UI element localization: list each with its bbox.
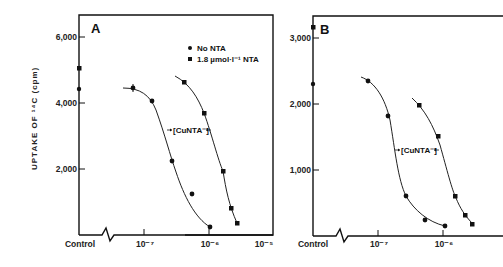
panel-b-letter: B xyxy=(320,22,329,37)
panel-b-y-tick-1000: 1,000 xyxy=(290,165,312,175)
panel-a-frame xyxy=(79,15,273,235)
panel-b-y-tick-3000: 3,000 xyxy=(290,33,312,43)
panel-a-x-tick-control: Control xyxy=(65,239,95,249)
panel-b-frame xyxy=(313,16,503,236)
panel-a-y-tick-2000: 2,000 xyxy=(56,164,78,174)
svg-text:[CuNTA⁻]: [CuNTA⁻] xyxy=(401,146,437,155)
panel-b-cunta-annotation: [CuNTA⁻] xyxy=(395,146,439,155)
panel-b-x-tick-1e-6: 10⁻⁶ xyxy=(435,239,453,249)
panel-a-x-axis xyxy=(79,228,273,241)
panel-a-x-tick-1e-6: 10⁻⁶ xyxy=(201,239,219,249)
panel-a-letter: A xyxy=(91,21,101,36)
panel-a-cunta-annotation: [CuNTA⁻] xyxy=(167,126,211,135)
panel-a-x-tick-1e-5: 10⁻⁵ xyxy=(255,239,273,249)
panel-a-y-tick-4000: 4,000 xyxy=(56,98,78,108)
legend-circle-marker xyxy=(188,46,192,50)
y-axis-title: UPTAKE OF ¹⁴C (cpm) xyxy=(30,67,39,170)
panel-b-x-tick-1e-7: 10⁻⁷ xyxy=(370,239,388,249)
legend: No NTA 1.8 µmol·l⁻¹ NTA xyxy=(188,44,259,64)
panel-a-x-tick-1e-7: 10⁻⁷ xyxy=(136,239,154,249)
panel-a-y-tick-6000: 6,000 xyxy=(56,32,78,42)
panel-b-x-axis xyxy=(313,229,503,242)
figure: UPTAKE OF ¹⁴C (cpm) A 6,000 4,000 2,000 … xyxy=(0,0,503,267)
panel-b-y-tick-2000: 2,000 xyxy=(290,99,312,109)
legend-label-nta: 1.8 µmol·l⁻¹ NTA xyxy=(197,55,259,64)
panel-a: A 6,000 4,000 2,000 Control 10⁻⁷ 10⁻⁶ 10… xyxy=(56,15,274,249)
panel-b-x-tick-control: Control xyxy=(298,239,328,249)
legend-square-marker xyxy=(188,57,192,61)
panel-b: B 3,000 2,000 1,000 Control 10⁻⁷ 10⁻⁶ xyxy=(290,16,503,249)
svg-text:[CuNTA⁻]: [CuNTA⁻] xyxy=(173,126,209,135)
legend-label-no-nta: No NTA xyxy=(197,44,226,53)
